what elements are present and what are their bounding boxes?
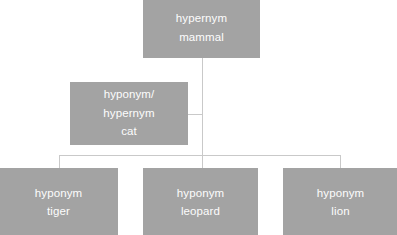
connector-cat-to-trunk bbox=[188, 114, 203, 115]
node-leopard[interactable]: hyponym leopard bbox=[143, 168, 258, 235]
node-tiger-term: tiger bbox=[47, 203, 70, 222]
node-leopard-term: leopard bbox=[181, 203, 220, 222]
connector-horizontal-bus bbox=[59, 155, 341, 156]
node-mammal-relation: hypernym bbox=[176, 10, 227, 29]
node-mammal[interactable]: hypernym mammal bbox=[143, 0, 260, 58]
node-cat-term: cat bbox=[121, 123, 137, 142]
node-cat-relation-hypernym: hypernym bbox=[103, 104, 154, 123]
node-cat[interactable]: hyponym/ hypernym cat bbox=[70, 82, 188, 145]
diagram-canvas: hypernym mammal hyponym/ hypernym cat hy… bbox=[0, 0, 397, 235]
node-tiger[interactable]: hyponym tiger bbox=[0, 168, 118, 235]
node-lion-term: lion bbox=[331, 203, 349, 222]
node-lion-relation: hyponym bbox=[317, 184, 364, 203]
node-tiger-relation: hyponym bbox=[35, 184, 82, 203]
node-mammal-term: mammal bbox=[179, 28, 224, 47]
node-leopard-relation: hyponym bbox=[177, 184, 224, 203]
node-lion[interactable]: hyponym lion bbox=[283, 168, 397, 235]
node-cat-relation-hyponym: hyponym/ bbox=[104, 86, 155, 105]
